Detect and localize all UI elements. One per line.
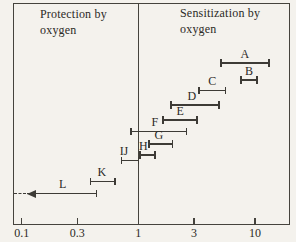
protection-region-label: Protection by oxygen [40,6,107,38]
bar-B [241,79,257,81]
x-tick-label-0.1: 0.1 [9,227,35,240]
sensitization-label-line1: Sensitization by [180,5,260,21]
protection-label-line2: oxygen [40,22,107,38]
sensitization-label-line2: oxygen [180,21,260,37]
point-label-C: C [200,74,224,88]
point-label-L: L [51,177,75,191]
bar-L-right-cap [96,190,98,198]
bar-IJ-right-cap [138,157,140,165]
bar-C-right-cap [225,87,227,95]
x-tick-3 [193,218,195,225]
unity-divider-line [138,3,140,224]
bar-K-right-cap [114,178,116,186]
figure-oxygen-effect-chart: Protection by oxygen Sensitization by ox… [0,0,296,242]
bar-IJ [122,160,139,162]
x-tick-label-1: 1 [125,227,151,240]
point-label-B: B [237,64,261,78]
x-tick-0.1 [21,218,23,225]
bar-L [27,193,97,195]
bar-F-left-cap [130,128,132,136]
x-tick-label-3: 3 [181,227,207,240]
bar-A-left-cap [220,59,222,67]
point-label-K: K [90,165,114,179]
x-tick-0.3 [77,218,79,225]
bar-D-right-cap [218,101,220,109]
x-tick-label-10: 10 [242,227,268,240]
x-tick-10 [254,218,256,225]
bar-L-dashed-tail [14,193,26,194]
bar-K [91,181,115,183]
protection-label-line1: Protection by [40,6,107,22]
bar-E [163,119,197,121]
bar-F-right-cap [186,128,188,136]
x-tick-label-0.3: 0.3 [64,227,90,240]
bar-E-right-cap [196,116,198,124]
bar-H [140,154,155,156]
sensitization-region-label: Sensitization by oxygen [180,5,260,37]
bar-G-right-cap [172,140,174,148]
point-label-E: E [168,104,192,118]
bar-A-right-cap [268,59,270,67]
point-label-IJ: IJ [112,144,136,158]
x-tick-1 [138,218,140,225]
point-label-D: D [180,89,204,103]
point-label-A: A [233,47,257,61]
left-arrowhead-icon [27,190,36,198]
